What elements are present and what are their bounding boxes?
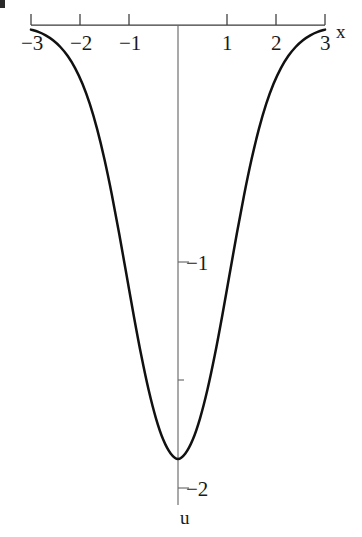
x-tick-label-neg3: −3 <box>21 31 43 55</box>
x-tick-label-neg2: −2 <box>70 31 92 55</box>
y-axis-label: u <box>180 507 190 528</box>
x-tick-label-2: 2 <box>271 31 282 55</box>
scan-artifact-mark <box>0 0 5 8</box>
x-tick-label-neg1: −1 <box>119 31 141 55</box>
x-tick-label-1: 1 <box>222 31 233 55</box>
y-tick-label-neg1: −1 <box>186 251 208 275</box>
y-tick-label-neg2: −2 <box>186 477 208 501</box>
plot-svg: −3 −2 −1 1 2 3 −1 −2 x u <box>0 0 362 537</box>
plot-figure: −3 −2 −1 1 2 3 −1 −2 x u <box>0 0 362 537</box>
x-axis-label: x <box>336 21 346 42</box>
x-tick-label-3: 3 <box>320 31 331 55</box>
